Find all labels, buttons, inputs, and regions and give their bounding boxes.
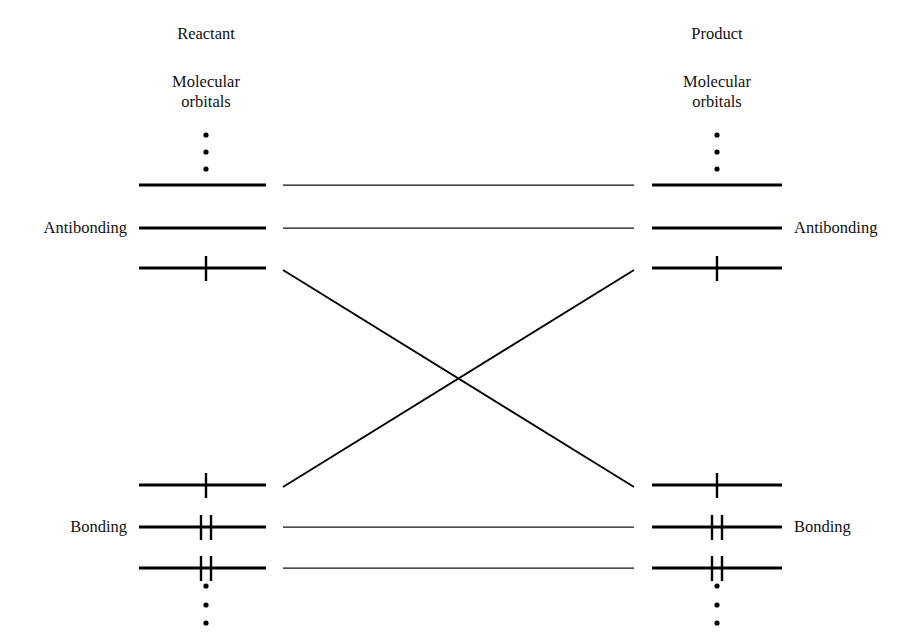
label-right-bonding: Bonding bbox=[794, 517, 851, 536]
product-electrons bbox=[712, 256, 722, 581]
column-header-reactant: Reactant bbox=[177, 24, 235, 43]
ellipsis-dot bbox=[203, 149, 208, 154]
ellipsis-dot bbox=[714, 166, 719, 171]
ellipsis-dots bbox=[203, 132, 719, 625]
label-left-bonding: Bonding bbox=[70, 517, 127, 536]
ellipsis-dot bbox=[203, 166, 208, 171]
label-left-antibonding: Antibonding bbox=[44, 218, 127, 237]
ellipsis-dot bbox=[203, 132, 208, 137]
reactant-levels bbox=[139, 185, 266, 568]
ellipsis-product-top bbox=[714, 132, 719, 171]
ellipsis-dot bbox=[714, 620, 719, 625]
ellipsis-reactant-bottom bbox=[203, 583, 208, 625]
label-right-antibonding: Antibonding bbox=[794, 218, 877, 237]
ellipsis-dot bbox=[203, 583, 208, 588]
ellipsis-dot bbox=[714, 149, 719, 154]
ellipsis-dot bbox=[714, 602, 719, 607]
ellipsis-dot bbox=[714, 583, 719, 588]
correlation-lines bbox=[283, 185, 634, 568]
column-header-product: Product bbox=[691, 24, 742, 43]
orbital-correlation-diagram: Reactant Product Molecular orbitals Mole… bbox=[0, 0, 918, 642]
reactant-electrons bbox=[201, 256, 211, 581]
diagram-canvas bbox=[0, 0, 918, 642]
product-levels bbox=[652, 185, 782, 568]
subtitle-reactant-molecular-orbitals-line2: orbitals bbox=[181, 92, 231, 112]
ellipsis-product-bottom bbox=[714, 583, 719, 625]
subtitle-product-molecular-orbitals-line2: orbitals bbox=[692, 92, 742, 112]
subtitle-product-molecular-orbitals-line1: Molecular bbox=[683, 72, 751, 92]
ellipsis-dot bbox=[203, 620, 208, 625]
ellipsis-reactant-top bbox=[203, 132, 208, 171]
ellipsis-dot bbox=[203, 602, 208, 607]
subtitle-reactant-molecular-orbitals-line1: Molecular bbox=[172, 72, 240, 92]
ellipsis-dot bbox=[714, 132, 719, 137]
